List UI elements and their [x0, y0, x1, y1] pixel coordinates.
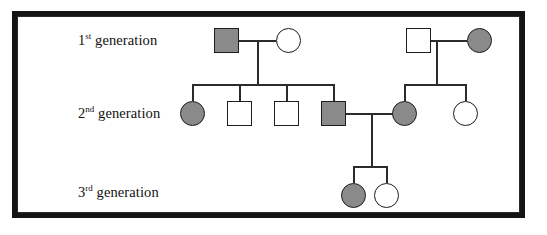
drop-III-1 — [353, 166, 355, 183]
drop-III-2 — [386, 166, 388, 183]
generation-word: generation — [91, 32, 157, 48]
generation-label-1: 1st generation — [78, 32, 157, 49]
individual-i-2-female-unaffected — [276, 28, 301, 53]
individual-ii-4-male-affected — [321, 101, 346, 126]
generation-ordinal-suffix: nd — [85, 104, 94, 114]
individual-i-4-female-affected — [467, 28, 492, 53]
generation-label-3: 3rd generation — [78, 184, 159, 201]
individual-ii-6-female-unaffected — [453, 101, 478, 126]
individual-i-1-male-affected — [214, 28, 239, 53]
descent-line-2 — [436, 40, 438, 84]
drop-II-3 — [286, 84, 288, 101]
individual-i-3-male-unaffected — [406, 28, 431, 53]
sibship-line-2 — [404, 84, 465, 86]
drop-II-5 — [404, 84, 406, 101]
individual-ii-3-male-unaffected — [274, 101, 299, 126]
drop-II-1 — [192, 84, 194, 101]
drop-II-4 — [333, 84, 335, 101]
generation-word: generation — [93, 184, 159, 200]
generation-word: generation — [94, 105, 160, 121]
individual-ii-2-male-unaffected — [227, 101, 252, 126]
descent-line-1 — [257, 40, 259, 84]
generation-label-2: 2nd generation — [78, 105, 160, 122]
sibship-line-1 — [192, 84, 334, 86]
individual-ii-1-female-affected — [180, 101, 205, 126]
individual-iii-2-female-unaffected — [374, 183, 399, 208]
individual-iii-1-female-affected — [341, 183, 366, 208]
pedigree-canvas: 1st generation2nd generation3rd generati… — [0, 0, 547, 235]
drop-II-6 — [465, 84, 467, 101]
individual-ii-5-female-affected — [392, 101, 417, 126]
drop-II-2 — [239, 84, 241, 101]
descent-line-3 — [371, 113, 373, 166]
generation-ordinal-suffix: rd — [85, 183, 92, 193]
pedigree-figure: 1st generation2nd generation3rd generati… — [0, 0, 547, 235]
sibship-line-3 — [353, 166, 386, 168]
